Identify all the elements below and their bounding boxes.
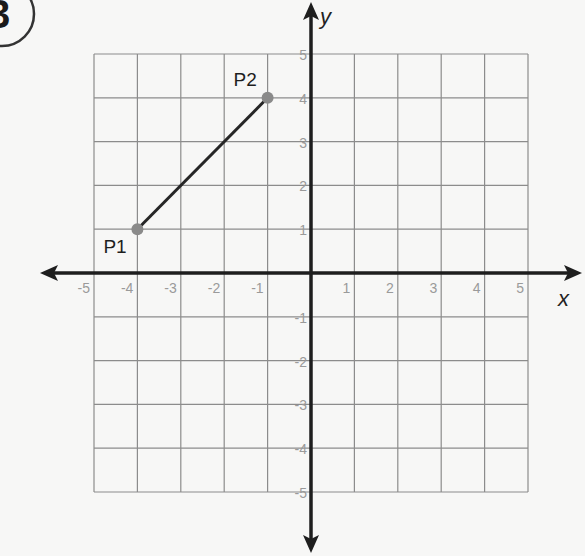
y-tick-label: 2 [299,178,307,194]
x-tick-label: -3 [164,280,177,296]
y-tick-label: -2 [295,354,308,370]
x-tick-label: 4 [473,280,481,296]
y-tick-label: 5 [299,47,307,63]
y-tick-label: -4 [295,441,308,457]
y-tick-label: 1 [299,222,307,238]
segment-line [137,98,267,229]
x-tick-label: 1 [343,280,351,296]
y-tick-label: 3 [299,135,307,151]
x-axis-label: x [557,286,570,311]
x-tick-label: -2 [208,280,221,296]
x-tick-label: -1 [251,280,264,296]
x-tick-label: -4 [121,280,134,296]
point-label: P1 [103,236,126,257]
point-marker [262,92,274,104]
point-marker [131,223,143,235]
point-label: P2 [234,69,257,90]
y-tick-label: -3 [295,397,308,413]
x-tick-label: -5 [78,280,91,296]
x-tick-label: 5 [516,280,524,296]
problem-number: 3 [0,0,10,36]
y-tick-label: -1 [295,310,308,326]
axes [40,2,582,553]
y-axis-label: y [318,4,333,29]
y-tick-label: 4 [299,91,307,107]
problem-number-badge: 3 [0,0,34,46]
coordinate-plane: -5-4-3-2-11234554321-1-2-3-4-5 P1P2 3 y … [0,0,585,556]
x-tick-label: 3 [429,280,437,296]
x-tick-label: 2 [386,280,394,296]
y-tick-label: -5 [295,485,308,501]
